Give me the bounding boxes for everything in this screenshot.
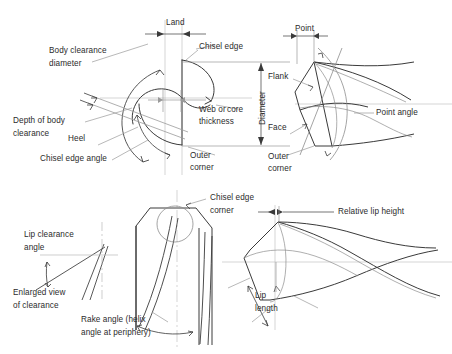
body-clearance-arc: [122, 70, 164, 162]
label-flank: Flank: [268, 72, 288, 82]
label-diameter: Diameter: [258, 91, 268, 125]
label-outer-corner-right-line2: corner: [268, 164, 292, 174]
view-drill-point: [283, 30, 452, 160]
label-chisel-edge-angle: Chisel edge angle: [40, 154, 107, 164]
label-body-clearance-diameter-line2: diameter: [49, 59, 82, 69]
lip-clearance-angle-arc: [45, 262, 51, 287]
label-enlarged-view-line2: of clearance: [13, 301, 59, 311]
label-web-or-core-line3: thickness: [199, 117, 234, 127]
label-body-clearance-diameter-line1: Body clearance: [49, 46, 107, 56]
drill-body-flute-curves: [139, 216, 212, 345]
label-heel: Heel: [68, 134, 85, 144]
label-chisel-edge-corner-line2: corner: [210, 206, 234, 216]
label-lip-length-line2: length: [255, 304, 278, 314]
label-outer-corner-left-line2: corner: [190, 163, 214, 173]
label-lip-length-line1: Lip: [255, 291, 266, 301]
label-outer-corner-left-line1: Outer: [190, 151, 211, 161]
label-depth-of-body-clearance-line2: clearance: [13, 129, 49, 139]
label-point-angle: Point angle: [376, 108, 418, 118]
label-point: Point: [295, 24, 314, 34]
label-outer-corner-right-line1: Outer: [268, 152, 289, 162]
label-lip-clearance-angle-line2: angle: [24, 243, 44, 253]
lip-view-outline: [244, 222, 440, 300]
chisel-edge-angle-arc: [134, 115, 170, 159]
label-enlarged-view-line1: Enlarged view: [13, 288, 66, 298]
label-rake-angle-line1: Rake angle (helix: [81, 315, 146, 325]
point-dimension: [283, 30, 328, 64]
label-relative-lip-height: Relative lip height: [338, 207, 404, 217]
label-web-or-core-line2: core: [227, 105, 243, 115]
label-land: Land: [166, 18, 185, 28]
land-dimension: [145, 31, 206, 37]
body-view-leaders: [152, 199, 206, 322]
label-lip-clearance-angle-line1: Lip clearance: [24, 230, 74, 240]
label-rake-angle-line2: angle at periphery): [81, 328, 151, 338]
label-depth-of-body-clearance-line1: Depth of body: [13, 116, 65, 126]
point-angle-lines: [300, 48, 342, 156]
relative-lip-height-dimension: [258, 206, 334, 222]
diagram-page: Land Body clearance diameter Chisel edge…: [0, 0, 452, 354]
label-chisel-edge: Chisel edge: [199, 42, 243, 52]
label-chisel-edge-corner-line1: Chisel edge: [210, 193, 254, 203]
label-face: Face: [268, 123, 287, 133]
label-web-or-core-line1: Web or: [199, 105, 226, 115]
drill-cross-section-outline: [132, 60, 214, 145]
